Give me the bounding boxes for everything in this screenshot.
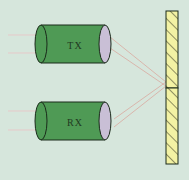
rx-lens — [99, 102, 111, 140]
reflector — [166, 11, 178, 164]
diagram-canvas: TX RX — [0, 0, 189, 180]
tx-lens — [99, 25, 111, 63]
rx-label: RX — [67, 117, 83, 128]
tx-label: TX — [67, 40, 82, 51]
diagram-svg — [0, 0, 189, 180]
light-beams — [110, 37, 166, 127]
